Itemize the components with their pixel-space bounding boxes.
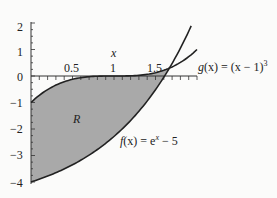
y-tick-label-neg1: −1 bbox=[10, 96, 23, 110]
chart-canvas: 0.5 1 1.5 2 1 0 −1 −2 −3 −4 x R f(x) = e… bbox=[0, 0, 277, 198]
shaded-region-r bbox=[31, 68, 169, 182]
f-curve-label: f(x) = ex − 5 bbox=[120, 133, 178, 148]
y-tick-label-1: 1 bbox=[17, 45, 23, 59]
y-tick-label-neg4: −4 bbox=[10, 176, 23, 190]
y-tick-label-neg2: −2 bbox=[10, 122, 23, 136]
y-tick-label-2: 2 bbox=[17, 20, 23, 34]
x-tick-label-0.5: 0.5 bbox=[64, 61, 79, 75]
x-tick-label-1.5: 1.5 bbox=[147, 61, 162, 75]
y-tick-label-0: 0 bbox=[17, 70, 23, 84]
x-tick-label-1: 1 bbox=[110, 61, 116, 75]
g-curve-label: g(x) = (x − 1)3 bbox=[198, 59, 268, 74]
y-tick-label-neg3: −3 bbox=[10, 148, 23, 162]
region-label: R bbox=[72, 112, 81, 126]
x-axis-label: x bbox=[110, 46, 117, 60]
